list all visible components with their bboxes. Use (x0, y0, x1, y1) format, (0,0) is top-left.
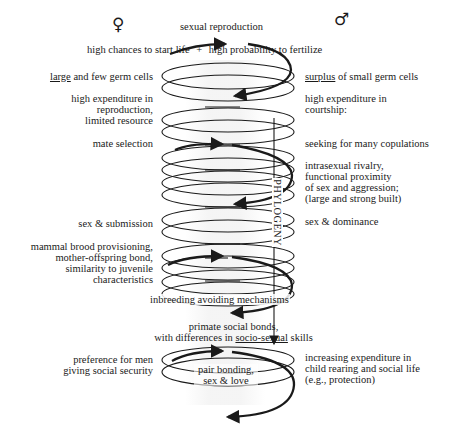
inbreeding-label: inbreeding avoiding mechanisms (149, 294, 290, 305)
subtitle-row: high chances to start life + high probab… (87, 44, 322, 55)
line: functional proximity (305, 171, 401, 182)
primate-bonds-label: primate social bonds, with differences i… (141, 321, 326, 343)
line: high expenditure in (305, 93, 387, 104)
line: pair bonding, (194, 364, 258, 375)
text: with differences in (154, 332, 235, 343)
text: skills (288, 332, 313, 343)
phylogeny-axis-label: PHYLOGENY (272, 178, 283, 247)
male-expenditure: high expenditure in courtship: (305, 93, 387, 115)
line: increasing expenditure in (305, 352, 420, 363)
line: sex & love (194, 375, 258, 386)
line: limited resource (71, 115, 153, 126)
male-symbol-icon: ♂ (334, 11, 349, 28)
male-sex-dominance: sex & dominance (305, 216, 378, 227)
underlined-text: socio-sexual (235, 332, 288, 343)
line: child rearing and social life (305, 363, 420, 374)
female-mate-selection: mate selection (93, 138, 153, 149)
pair-bonding-label: pair bonding, sex & love (194, 364, 258, 386)
line: with differences in socio-sexual skills (141, 332, 326, 343)
plus-sign: + (196, 44, 202, 55)
line: characteristics (31, 274, 153, 285)
female-preference: preference for men giving social securit… (63, 354, 153, 376)
female-expenditure: high expenditure in reproduction, limite… (71, 93, 153, 126)
line: courtship: (305, 104, 387, 115)
line: (large and strong built) (305, 193, 401, 204)
line: mother-offspring bond, (31, 252, 153, 263)
male-rivalry: intrasexual rivalry, functional proximit… (305, 160, 401, 204)
male-child-rearing: increasing expenditure in child rearing … (305, 352, 420, 385)
line: primate social bonds, (141, 321, 326, 332)
female-germ-cells: large and few germ cells (50, 71, 153, 82)
female-sex-submission: sex & submission (78, 218, 153, 229)
male-germ-cells-text: of small germ cells (335, 71, 418, 82)
male-underlined-word: surplus (305, 71, 335, 82)
title-sexual-reproduction: sexual reproduction (180, 21, 263, 32)
line: giving social security (63, 365, 153, 376)
female-mammal-brood: mammal brood provisioning, mother-offspr… (31, 241, 153, 285)
line: high expenditure in (71, 93, 153, 104)
line: of sex and aggression; (305, 182, 401, 193)
male-germ-cells: surplus of small germ cells (305, 71, 418, 82)
female-symbol-icon: ♀ (112, 16, 124, 33)
subtitle-male: high probability to fertilize (209, 44, 322, 55)
line: intrasexual rivalry, (305, 160, 401, 171)
female-germ-cells-text: and few germ cells (71, 71, 153, 82)
line: similarity to juvenile (31, 263, 153, 274)
subtitle-female: high chances to start life (87, 44, 190, 55)
male-copulations: seeking for many copulations (305, 138, 429, 149)
female-underlined-word: large (50, 71, 71, 82)
line: preference for men (63, 354, 153, 365)
line: mammal brood provisioning, (31, 241, 153, 252)
line: reproduction, (71, 104, 153, 115)
line: (e.g., protection) (305, 374, 420, 385)
